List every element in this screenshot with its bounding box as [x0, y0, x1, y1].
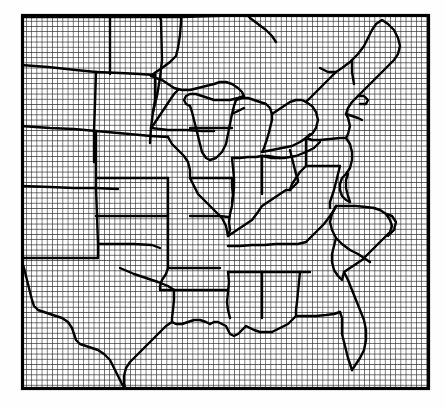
state-line-nebraska-north — [151, 136, 168, 137]
texas-northwest-border — [21, 258, 22, 262]
map-figure: Computational grid overlaid on map of th… — [0, 0, 445, 410]
grid-map-graphic — [0, 0, 445, 410]
